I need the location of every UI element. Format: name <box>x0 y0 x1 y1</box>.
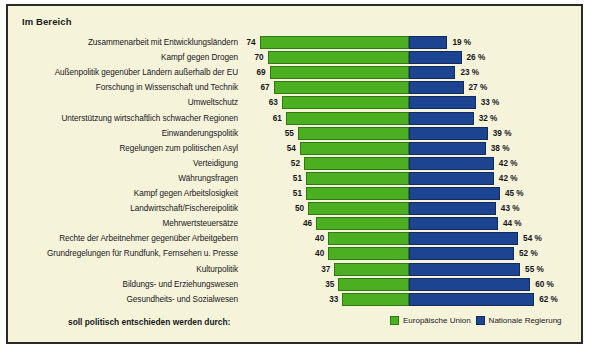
bar-segment-eu <box>300 142 409 155</box>
chart-legend: Europäische Union Nationale Regierung <box>390 316 562 325</box>
bar-value-eu: 51 <box>278 189 302 198</box>
table-row: Regelungen zum politischen Asyl5438 % <box>8 142 581 157</box>
bar-segment-eu <box>274 81 409 94</box>
bar-segment-national <box>409 232 518 245</box>
bar-value-eu: 63 <box>254 98 278 107</box>
bar-value-eu: 37 <box>306 265 330 274</box>
bar-row-label: Bildungs- und Erziehungswesen <box>16 280 238 289</box>
bar-row-label: Zusammenarbeit mit Entwicklungsländern <box>16 38 238 47</box>
table-row: Grundregelungen für Rundfunk, Fernsehen … <box>8 247 581 262</box>
bar-segment-eu <box>334 263 409 276</box>
bar-row-label: Landwirtschaft/Fischereipolitik <box>16 204 238 213</box>
bar-value-eu: 40 <box>300 249 324 258</box>
bar-value-national: 26 % <box>467 53 486 62</box>
bar-value-national: 38 % <box>491 144 510 153</box>
bar-row-label: Verteidigung <box>16 159 238 168</box>
bar-segment-national <box>409 263 520 276</box>
bar-value-national: 19 % <box>452 38 471 47</box>
bar-value-eu: 40 <box>300 234 324 243</box>
bar-row-label: Regelungen zum politischen Asyl <box>16 144 238 153</box>
bar-row-label: Rechte der Arbeitnehmer gegenüber Arbeit… <box>16 234 238 243</box>
bar-segment-national <box>409 51 462 64</box>
bar-row-label: Mehrwertsteuersätze <box>16 219 238 228</box>
table-row: Rechte der Arbeitnehmer gegenüber Arbeit… <box>8 232 581 247</box>
bar-segment-national <box>409 187 500 200</box>
bar-value-national: 52 % <box>519 249 538 258</box>
legend-label-eu: Europäische Union <box>403 316 471 325</box>
bar-segment-eu <box>260 36 409 49</box>
table-row: Umweltschutz6333 % <box>8 96 581 111</box>
bar-segment-eu <box>270 66 409 79</box>
bar-value-national: 62 % <box>539 295 558 304</box>
bar-value-eu: 70 <box>240 53 264 62</box>
table-row: Landwirtschaft/Fischereipolitik5043 % <box>8 202 581 217</box>
bar-value-eu: 61 <box>258 114 282 123</box>
bar-segment-national <box>409 247 514 260</box>
bar-value-national: 27 % <box>469 83 488 92</box>
bar-value-national: 43 % <box>501 204 520 213</box>
bar-value-eu: 46 <box>288 219 312 228</box>
legend-item-national: Nationale Regierung <box>476 316 562 325</box>
bar-segment-eu <box>316 217 409 230</box>
bar-value-national: 55 % <box>525 265 544 274</box>
table-row: Gesundheits- und Sozialwesen3362 % <box>8 293 581 308</box>
bar-segment-eu <box>268 51 409 64</box>
bar-value-eu: 50 <box>280 204 304 213</box>
page-title: Im Bereich <box>22 16 72 27</box>
bar-segment-national <box>409 66 455 79</box>
bar-value-national: 60 % <box>535 280 554 289</box>
bar-value-national: 42 % <box>499 174 518 183</box>
bar-row-label: Umweltschutz <box>16 98 238 107</box>
bar-value-eu: 54 <box>272 144 296 153</box>
bar-segment-national <box>409 202 496 215</box>
table-row: Zusammenarbeit mit Entwicklungsländern74… <box>8 36 581 51</box>
chart-panel: Im Bereich Zusammenarbeit mit Entwicklun… <box>6 4 583 344</box>
bar-segment-eu <box>298 127 409 140</box>
bar-value-eu: 74 <box>232 38 256 47</box>
bar-segment-national <box>409 81 464 94</box>
bar-segment-national <box>409 293 534 306</box>
table-row: Währungsfragen5142 % <box>8 172 581 187</box>
bar-row-label: Forschung in Wissenschaft und Technik <box>16 83 238 92</box>
legend-swatch-national-icon <box>476 316 485 325</box>
bar-value-eu: 51 <box>278 174 302 183</box>
legend-swatch-eu-icon <box>390 316 399 325</box>
table-row: Mehrwertsteuersätze4644 % <box>8 217 581 232</box>
table-row: Einwanderungspolitik5539 % <box>8 127 581 142</box>
bar-segment-national <box>409 96 476 109</box>
legend-label-national: Nationale Regierung <box>489 316 562 325</box>
bar-segment-eu <box>308 202 409 215</box>
bar-segment-eu <box>338 278 409 291</box>
bar-value-national: 32 % <box>479 114 498 123</box>
bar-segment-national <box>409 112 474 125</box>
bar-value-national: 23 % <box>460 68 479 77</box>
bar-segment-eu <box>282 96 409 109</box>
bar-value-eu: 67 <box>246 83 270 92</box>
bar-row-label: Kampf gegen Arbeitslosigkeit <box>16 189 238 198</box>
bar-segment-national <box>409 142 486 155</box>
bar-value-eu: 69 <box>242 68 266 77</box>
bar-segment-eu <box>286 112 409 125</box>
bar-segment-eu <box>306 187 409 200</box>
table-row: Bildungs- und Erziehungswesen3560 % <box>8 278 581 293</box>
bar-row-label: Einwanderungspolitik <box>16 129 238 138</box>
bar-value-national: 44 % <box>503 219 522 228</box>
bar-segment-eu <box>342 293 409 306</box>
bar-segment-national <box>409 172 494 185</box>
table-row: Kampf gegen Arbeitslosigkeit5145 % <box>8 187 581 202</box>
bar-segment-eu <box>328 232 409 245</box>
footer-note: soll politisch entschieden werden durch: <box>68 317 230 327</box>
bar-row-label: Gesundheits- und Sozialwesen <box>16 295 238 304</box>
bar-row-label: Grundregelungen für Rundfunk, Fernsehen … <box>16 249 238 258</box>
bar-segment-national <box>409 157 494 170</box>
bar-value-eu: 55 <box>270 129 294 138</box>
bar-segment-national <box>409 278 530 291</box>
bar-value-eu: 52 <box>276 159 300 168</box>
table-row: Außenpolitik gegenüber Ländern außerhalb… <box>8 66 581 81</box>
bar-value-national: 33 % <box>481 98 500 107</box>
bar-segment-national <box>409 217 498 230</box>
bar-segment-eu <box>304 157 409 170</box>
legend-item-eu: Europäische Union <box>390 316 471 325</box>
bar-segment-eu <box>306 172 409 185</box>
table-row: Forschung in Wissenschaft und Technik672… <box>8 81 581 96</box>
